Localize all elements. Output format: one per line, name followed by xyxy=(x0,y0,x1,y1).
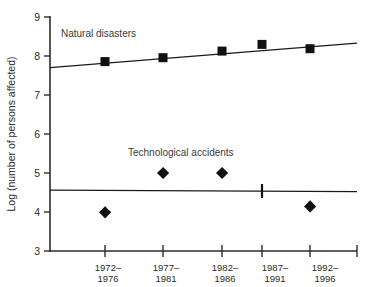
data-point-natural-1972-1976 xyxy=(101,57,110,66)
data-point-natural-1982-1986 xyxy=(218,47,227,56)
data-point-natural-1977-1981 xyxy=(159,53,168,62)
annotation-technological-accidents: Technological accidents xyxy=(128,147,234,158)
y-axis-title: Log (number of persons affected) xyxy=(5,56,17,211)
chart-background xyxy=(0,0,373,287)
annotation-natural-disasters: Natural disasters xyxy=(61,28,136,39)
y-tick-label-8: 8 xyxy=(34,50,40,62)
y-tick-label-5: 5 xyxy=(34,167,40,179)
y-tick-label-3: 3 xyxy=(34,245,40,257)
data-point-natural-1992-1996 xyxy=(306,44,315,53)
x-label-1982-1986-line1: 1982– xyxy=(212,262,239,273)
x-label-1972-1976-line2: 1976 xyxy=(97,273,118,284)
log-persons-affected-chart: Log (number of persons affected) 9 8 7 6… xyxy=(0,0,373,287)
data-point-natural-1987-1991 xyxy=(258,40,267,49)
x-label-1987-1991-line2: 1991 xyxy=(264,273,285,284)
x-label-1992-1996-line1: 1992– xyxy=(312,262,339,273)
x-label-1977-1981-line1: 1977– xyxy=(153,262,180,273)
x-label-1972-1976-line1: 1972– xyxy=(95,262,122,273)
x-label-1977-1981-line2: 1981 xyxy=(155,273,176,284)
x-label-1987-1991-line1: 1987– xyxy=(262,262,289,273)
chart-container: Log (number of persons affected) 9 8 7 6… xyxy=(0,0,373,287)
y-tick-label-4: 4 xyxy=(34,206,40,218)
x-label-1982-1986-line2: 1986 xyxy=(214,273,235,284)
x-label-1992-1996-line2: 1996 xyxy=(314,273,335,284)
y-tick-label-6: 6 xyxy=(34,128,40,140)
y-tick-label-9: 9 xyxy=(34,11,40,23)
y-tick-label-7: 7 xyxy=(34,89,40,101)
